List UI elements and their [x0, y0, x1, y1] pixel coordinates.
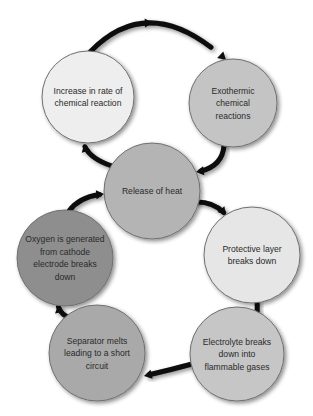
mid-arrowhead-icon [145, 19, 153, 28]
node-label-line: down into [219, 349, 256, 359]
node-circle [17, 210, 113, 306]
node-label-line: Protective layer [222, 244, 281, 254]
node-protective: Protective layerbreaks down [204, 207, 300, 303]
node-circle [42, 51, 134, 143]
node-exothermic: Exothermicchemicalreactions [189, 59, 277, 147]
node-label-line: Increase in rate of [54, 86, 123, 96]
node-label-line: electrode breaks [33, 259, 97, 269]
node-label-line: leading to a short [64, 348, 131, 358]
node-release: Release of heat [104, 143, 200, 239]
arrowhead-icon [217, 51, 226, 60]
arrow-shaft [201, 146, 224, 171]
node-label-line: Electrolyte breaks [203, 337, 271, 347]
node-label-line: from cathode [40, 247, 90, 257]
thermal-runaway-cycle-diagram: Increase in rate ofchemical reactionExot… [0, 0, 313, 416]
node-increase: Increase in rate ofchemical reaction [42, 51, 134, 143]
node-label-line: reactions [216, 111, 251, 121]
arrow-release-to-protective [197, 202, 226, 215]
node-oxygen: Oxygen is generatedfrom cathodeelectrode… [17, 210, 113, 306]
node-label-line: chemical reaction [55, 98, 122, 108]
arrow-release-to-increase [82, 144, 112, 166]
node-label-line: down [55, 272, 76, 282]
node-label-line: Separator melts [67, 336, 128, 346]
node-separator: Separator meltsleading to a shortcircuit [49, 305, 145, 401]
arrow-increase-to-exothermic [90, 19, 226, 60]
arrow-exothermic-to-release [196, 146, 224, 175]
arrow-shaft [90, 23, 211, 52]
node-label-line: chemical [216, 98, 250, 108]
node-label-line: Exothermic [212, 86, 256, 96]
node-label-line: Release of heat [122, 186, 183, 196]
arrow-shaft [149, 364, 192, 375]
arrow-shaft [69, 195, 99, 211]
arrow-electrolyte-to-separator [144, 364, 192, 379]
arrow-oxygen-to-release [69, 190, 104, 211]
node-label-line: Oxygen is generated [25, 234, 105, 244]
node-circle [204, 207, 300, 303]
node-label-line: breaks down [228, 256, 277, 266]
node-label-line: circuit [86, 361, 109, 371]
nodes-layer: Increase in rate ofchemical reactionExot… [17, 51, 300, 401]
arrowhead-icon [144, 370, 153, 379]
node-electrolyte: Electrolyte breaksdown intoflammable gas… [190, 307, 284, 401]
node-label-line: flammable gases [205, 362, 270, 372]
arrowhead-icon [96, 190, 104, 199]
